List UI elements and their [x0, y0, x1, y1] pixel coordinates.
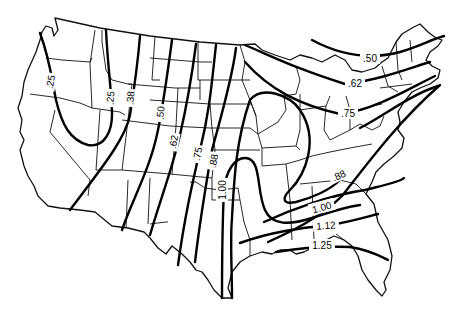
svg-text:1.00: 1.00: [217, 180, 228, 200]
svg-text:.75: .75: [341, 108, 355, 119]
svg-text:.88: .88: [207, 153, 220, 169]
isoline-100-north-loop: [231, 93, 340, 298]
label-025-west: .25: [43, 72, 58, 92]
svg-text:1.25: 1.25: [312, 240, 332, 251]
label-025-loop: .25: [103, 88, 117, 107]
label-038: .38: [123, 88, 137, 107]
isoline-025-loop: [56, 30, 112, 145]
label-100-central: 1.00: [216, 178, 228, 202]
svg-text:1.12: 1.12: [316, 219, 337, 231]
us-isoline-map: .25 .25 .38 .50 .62 .75 .88 1.00: [0, 0, 463, 311]
label-050-northeast: .50: [360, 52, 380, 64]
svg-text:.25: .25: [104, 90, 116, 105]
svg-text:.62: .62: [167, 134, 180, 150]
state-borders: [30, 30, 412, 256]
label-112: 1.12: [313, 218, 340, 232]
label-062-northeast: .62: [345, 77, 365, 89]
isoline-050-west: [122, 40, 172, 230]
svg-text:.50: .50: [154, 105, 166, 120]
label-050-west: .50: [153, 103, 167, 122]
svg-text:.38: .38: [124, 90, 136, 105]
svg-text:.50: .50: [363, 53, 377, 64]
svg-text:.25: .25: [44, 74, 57, 90]
label-125: 1.25: [309, 239, 335, 251]
label-075-west: .75: [190, 144, 205, 164]
label-088-west: .88: [206, 151, 221, 171]
svg-text:.62: .62: [348, 78, 362, 89]
label-062-west: .62: [166, 132, 181, 152]
label-075-northeast: .75: [338, 107, 358, 119]
svg-text:.75: .75: [191, 146, 204, 162]
